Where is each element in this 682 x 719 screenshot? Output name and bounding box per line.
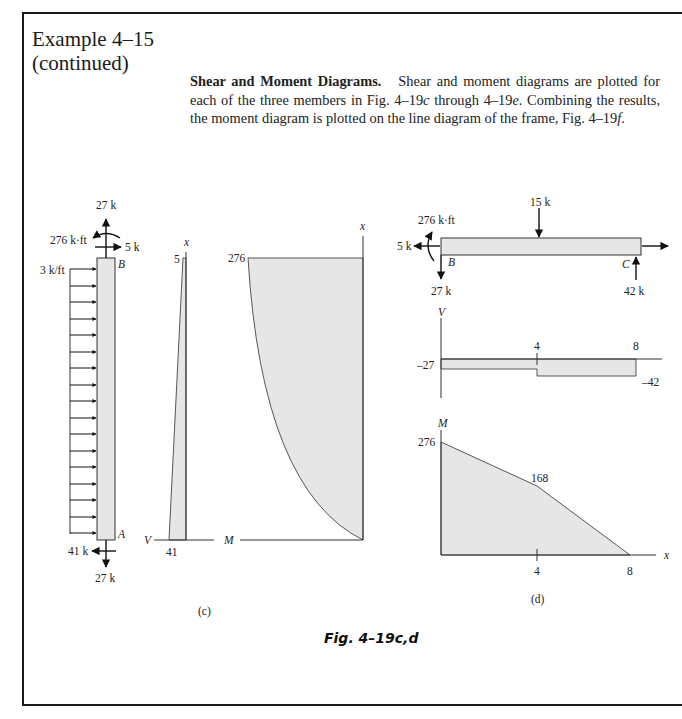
shear-bottom-value: 41 — [166, 546, 178, 558]
shear-left-value: –27 — [416, 359, 435, 371]
joint-c-label: C — [622, 258, 630, 270]
beam-free-body: 15 k 5 k 276 k·ft B 27 k C 42 k — [397, 196, 668, 297]
joint-b-label: B — [118, 258, 125, 270]
moment-168-value: 168 — [531, 472, 549, 484]
beam-member — [441, 238, 641, 255]
axis-m-label: M — [437, 417, 449, 429]
right-reaction-label: 42 k — [624, 285, 644, 297]
top-shear-label: 5 k — [125, 241, 140, 253]
axis-x-label: x — [663, 549, 670, 561]
axis-x-label: x — [359, 220, 366, 232]
column-shear-diagram: x 5 V 41 — [144, 236, 214, 558]
column-moment-diagram: x 276 M — [223, 220, 366, 546]
tick-4-label: 4 — [534, 340, 540, 352]
axis-x-label: x — [183, 236, 190, 248]
distributed-load-arrows — [70, 269, 96, 533]
axis-m-label: M — [223, 534, 235, 546]
mid-load-label: 15 k — [530, 196, 550, 208]
tick-8-label: 8 — [633, 340, 639, 352]
tick-4-label: 4 — [534, 565, 540, 577]
left-shear-label: 27 k — [431, 285, 451, 297]
column-member — [97, 258, 115, 540]
figure-caption: Fig. 4–19c,d — [324, 630, 418, 646]
shear-right-value: –42 — [641, 376, 660, 388]
moment-top-value: 276 — [228, 252, 246, 264]
beam-shear-diagram: V 4 8 –27 –42 — [416, 306, 662, 398]
axis-v-label: V — [438, 306, 447, 318]
joint-a-label: A — [117, 528, 126, 540]
moment-276-value: 276 — [418, 436, 436, 448]
figure-c-label: (c) — [198, 605, 211, 618]
left-moment-label: 276 k·ft — [418, 214, 456, 226]
top-moment-label: 276 k·ft — [50, 234, 88, 246]
beam-moment-diagram: M 276 168 4 8 x — [418, 417, 670, 577]
figure-d-label: (d) — [531, 593, 545, 606]
top-axial-label: 27 k — [96, 199, 116, 211]
bottom-axial-label: 27 k — [95, 572, 115, 584]
left-axial-label: 5 k — [397, 240, 412, 252]
shear-top-value: 5 — [174, 253, 180, 265]
distributed-load-label: 3 k/ft — [40, 264, 65, 276]
bottom-shear-label: 41 k — [68, 545, 88, 557]
tick-8-label: 8 — [627, 565, 633, 577]
axis-v-label: V — [144, 534, 153, 546]
column-free-body: 27 k 5 k 276 k·ft B 3 k/ft — [40, 199, 140, 584]
joint-b-label: B — [448, 256, 455, 268]
